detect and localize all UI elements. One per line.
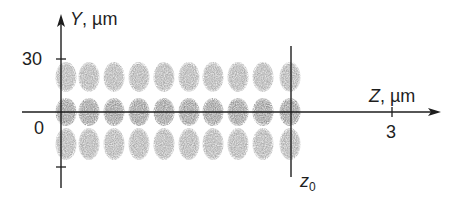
spot-core-lower-5 bbox=[180, 130, 198, 158]
z-axis-unit: , µm bbox=[380, 86, 415, 106]
z-axis-var: Z bbox=[369, 86, 380, 106]
spot-core-lower-6 bbox=[204, 130, 222, 158]
spot-core-upper-5 bbox=[180, 64, 198, 90]
spot-core-upper-1 bbox=[80, 64, 98, 90]
z0-subscript: 0 bbox=[309, 180, 316, 194]
spot-core-upper-4 bbox=[155, 64, 173, 90]
spot-core-lower-8 bbox=[254, 130, 272, 158]
spot-core-upper-0 bbox=[57, 64, 75, 90]
y-tick-label-0: 0 bbox=[34, 119, 44, 137]
spot-core-upper-9 bbox=[281, 64, 299, 90]
y-axis-unit: , µm bbox=[82, 9, 117, 29]
spot-core-lower-9 bbox=[281, 130, 299, 158]
z-tick-label-3: 3 bbox=[386, 123, 396, 141]
spot-array bbox=[56, 62, 301, 160]
spot-core-upper-7 bbox=[229, 64, 247, 90]
spot-core-lower-0 bbox=[57, 130, 75, 158]
y-axis-var: Y bbox=[70, 9, 82, 29]
diagram-figure: Y, µm 30 0 Z, µm 3 z0 bbox=[0, 0, 471, 198]
y-axis-title: Y, µm bbox=[70, 10, 117, 28]
z0-marker-label: z0 bbox=[300, 172, 316, 193]
spot-core-upper-6 bbox=[204, 64, 222, 90]
spot-core-upper-2 bbox=[105, 64, 123, 90]
z0-var: z bbox=[300, 171, 309, 191]
spot-core-upper-8 bbox=[254, 64, 272, 90]
spot-core-lower-3 bbox=[130, 130, 148, 158]
spot-core-upper-3 bbox=[130, 64, 148, 90]
spot-core-lower-7 bbox=[229, 130, 247, 158]
spot-core-lower-4 bbox=[155, 130, 173, 158]
z-axis-title: Z, µm bbox=[369, 87, 415, 105]
y-tick-label-30: 30 bbox=[22, 50, 42, 68]
spot-core-lower-1 bbox=[80, 130, 98, 158]
spot-core-lower-2 bbox=[105, 130, 123, 158]
